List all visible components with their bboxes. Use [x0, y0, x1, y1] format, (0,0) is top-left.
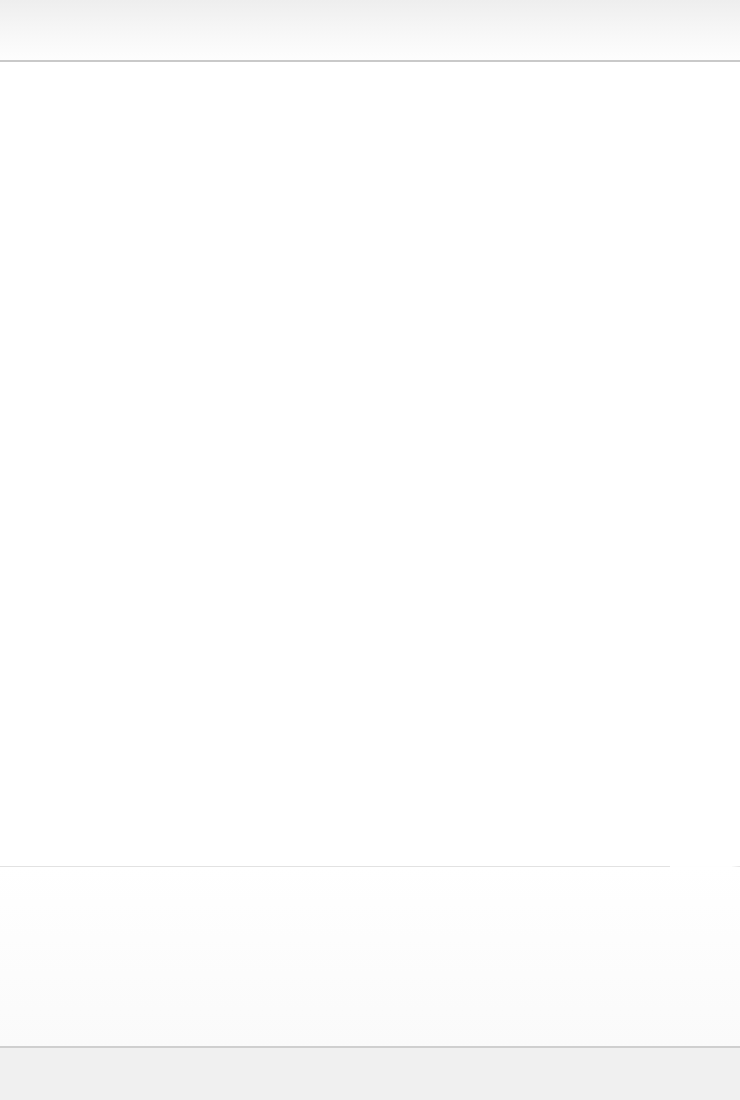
header-text — [60, 12, 680, 48]
lower-text-block — [0, 867, 740, 1046]
page-body — [0, 62, 740, 866]
page-header — [0, 0, 740, 60]
document-page — [0, 0, 740, 1100]
page-footer — [0, 1048, 740, 1100]
